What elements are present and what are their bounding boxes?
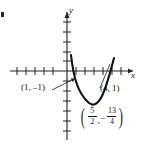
x-axis-label: x (131, 70, 135, 80)
vertex-x-denominator: 2 (90, 118, 94, 126)
vertex-minus-sign: – (100, 112, 107, 122)
vertex-y-denominator: 4 (110, 118, 114, 126)
point-label-left: (1, –1) (21, 83, 45, 92)
point-label-right: (4, 1) (100, 84, 120, 93)
parabola-curve (71, 55, 114, 105)
vertex-x-fraction: 5 2 (88, 107, 97, 126)
y-axis (63, 12, 71, 140)
vertex-close-paren: ) (119, 107, 123, 126)
x-axis (10, 67, 133, 75)
vertex-y-fraction: 13 4 (107, 107, 116, 126)
vertex-label: ( 5 2 , – 13 4 ) (79, 107, 125, 126)
leader-line-left (52, 78, 76, 90)
vertex-x-numerator: 5 (90, 107, 94, 115)
y-axis-label: y (69, 5, 73, 15)
parabola-figure: y x (1, –1) (4, 1) ( 5 2 , – 13 4 ) (0, 0, 142, 144)
vertex-y-numerator: 13 (108, 107, 116, 115)
vertex-open-paren: ( (81, 107, 85, 126)
